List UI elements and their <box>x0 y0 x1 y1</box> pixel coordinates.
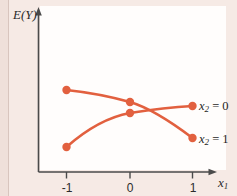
y-axis-label: E(Y) <box>13 8 37 21</box>
data-point <box>126 109 134 117</box>
data-point <box>62 143 70 151</box>
figure-container: E(Y) x1 -1 0 1 x2 = 0 x2 = 1 <box>0 0 237 196</box>
tick-label-1: 1 <box>184 182 202 194</box>
series-label-x2-equals-1: x2 = 1 <box>199 133 229 147</box>
series-label-subscript: 2 <box>205 137 210 147</box>
data-point <box>188 134 196 142</box>
y-axis <box>35 7 42 172</box>
x-axis <box>39 169 218 175</box>
x-axis-ticks <box>67 172 193 179</box>
plot-svg <box>0 0 237 196</box>
series-label-equation: = 0 <box>212 99 228 113</box>
tick-label-0: 0 <box>121 182 139 194</box>
data-point <box>188 102 196 110</box>
x-axis-label: x1 <box>218 176 228 191</box>
series-label-x2-equals-0: x2 = 0 <box>199 100 229 114</box>
x-axis-label-subscript: 1 <box>224 181 229 191</box>
data-point <box>62 86 70 94</box>
series-label-equation: = 1 <box>212 132 228 146</box>
data-point <box>126 98 134 106</box>
series-label-subscript: 2 <box>205 104 210 114</box>
tick-label-minus1: -1 <box>58 182 76 194</box>
